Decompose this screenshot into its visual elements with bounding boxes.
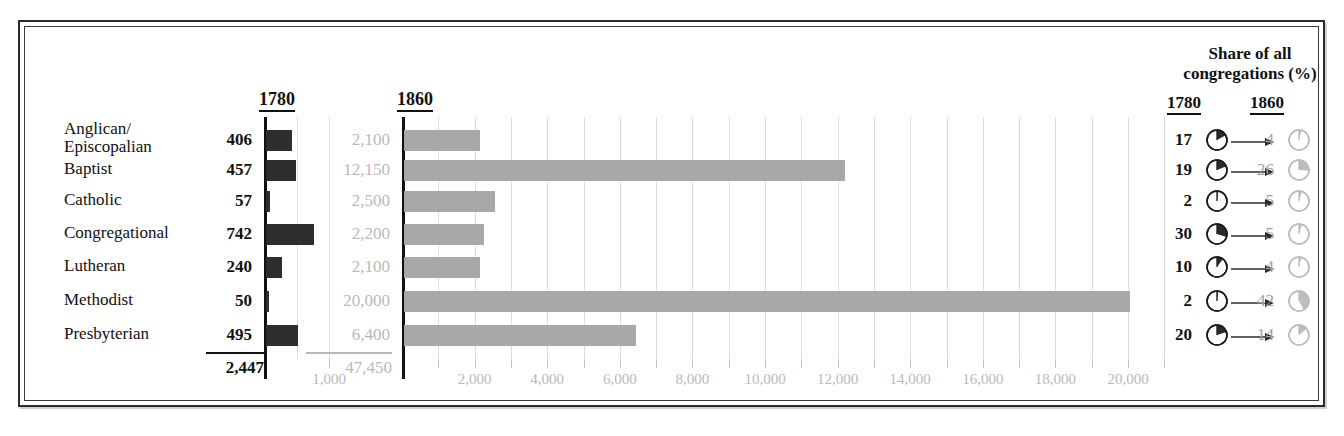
tick-1860-5000 (584, 359, 585, 368)
pie-1860-3 (1288, 223, 1310, 249)
gridline-1860-8000 (692, 117, 693, 359)
share-pct-1860-1: 26 (1240, 160, 1274, 180)
value-1780-4: 240 (190, 257, 252, 277)
share-title-line1: Share of all (1160, 44, 1340, 64)
share-col-header-1780: 1780 (1167, 94, 1201, 115)
total-1780: 2,447 (202, 358, 264, 378)
total-rule-1860 (306, 352, 392, 354)
pie-1780-4 (1206, 256, 1228, 282)
share-pct-1860-3: 5 (1240, 224, 1274, 244)
tick-1860-19000 (1092, 359, 1093, 368)
bar-1860-6 (404, 325, 636, 346)
tick-1860-7000 (656, 359, 657, 368)
pie-1860-2 (1288, 190, 1310, 216)
gridline-1860-17000 (1019, 117, 1020, 359)
bar-1860-4 (404, 257, 480, 278)
gridline-1860-16000 (983, 117, 984, 359)
bar-1780-6 (266, 325, 298, 346)
value-1780-3: 742 (190, 224, 252, 244)
pie-1860-5 (1288, 290, 1310, 316)
tick-1860-18000 (1055, 359, 1056, 368)
gridline-1860-18000 (1055, 117, 1056, 359)
pie-1780-5 (1206, 290, 1228, 316)
tick-1860-11000 (801, 359, 802, 368)
share-pct-1860-0: 4 (1240, 130, 1274, 150)
value-1780-5: 50 (190, 291, 252, 311)
gridline-1860-19000 (1092, 117, 1093, 359)
pie-1860-1 (1288, 159, 1310, 185)
bar-1780-1 (266, 160, 296, 181)
bar-1780-4 (266, 257, 282, 278)
share-pct-1780-2: 2 (1158, 191, 1192, 211)
tick-1860-1000 (438, 359, 439, 368)
pie-1860-4 (1288, 256, 1310, 282)
panel-header-1780: 1780 (259, 90, 295, 112)
axis-label-1860-20000: 20,000 (1083, 371, 1173, 388)
gridline-1860-14000 (910, 117, 911, 359)
gridline-1860-20000 (1128, 117, 1129, 359)
gridline-1860-6000 (620, 117, 621, 359)
tick-1860-13000 (874, 359, 875, 368)
pie-1860-0 (1288, 129, 1310, 155)
share-pct-1860-4: 4 (1240, 257, 1274, 277)
tick-1860-8000 (692, 359, 693, 368)
pie-1780-6 (1206, 324, 1228, 350)
bar-1860-2 (404, 191, 495, 212)
tick-1860-9000 (729, 359, 730, 368)
gridline-1860-11000 (801, 117, 802, 359)
share-pct-1860-2: 5 (1240, 191, 1274, 211)
value-1860-3: 2,200 (302, 224, 390, 244)
tick-1860-6000 (620, 359, 621, 368)
gridline-1860-4000 (547, 117, 548, 359)
share-pct-1780-6: 20 (1158, 325, 1192, 345)
gridline-1860-13000 (874, 117, 875, 359)
gridline-1860-12000 (838, 117, 839, 359)
pie-1780-0 (1206, 129, 1228, 155)
tick-1860-14000 (910, 359, 911, 368)
tick-1860-12000 (838, 359, 839, 368)
bar-1860-1 (404, 160, 845, 181)
pie-1780-3 (1206, 223, 1228, 249)
bar-1780-2 (266, 191, 270, 212)
chart-frame: 17801860Anglican/ Episcopalian4062,100Ba… (18, 20, 1325, 407)
pie-1780-1 (1206, 159, 1228, 185)
share-title-line2: congregations (%) (1160, 64, 1340, 84)
gridline-1860-5000 (584, 117, 585, 359)
total-1860: 47,450 (304, 358, 392, 378)
pie-1860-6 (1288, 324, 1310, 350)
tick-1860-20000 (1128, 359, 1129, 368)
value-1780-6: 495 (190, 325, 252, 345)
share-pct-1860-5: 42 (1240, 291, 1274, 311)
share-pct-1780-1: 19 (1158, 160, 1192, 180)
share-pct-1780-3: 30 (1158, 224, 1192, 244)
share-pct-1780-0: 17 (1158, 130, 1192, 150)
tick-1860-2000 (475, 359, 476, 368)
value-1860-1: 12,150 (302, 160, 390, 180)
share-pct-1780-5: 2 (1158, 291, 1192, 311)
share-panel-title: Share of all congregations (%) (1160, 44, 1340, 83)
gridline-1860-7000 (656, 117, 657, 359)
value-1780-1: 457 (190, 160, 252, 180)
bar-1860-3 (404, 224, 484, 245)
value-1860-6: 6,400 (302, 325, 390, 345)
gridline-1860-9000 (729, 117, 730, 359)
share-pct-1780-4: 10 (1158, 257, 1192, 277)
tick-1860-4000 (547, 359, 548, 368)
tick-1860-3000 (511, 359, 512, 368)
share-pct-1860-6: 14 (1240, 325, 1274, 345)
share-col-header-1860: 1860 (1250, 94, 1284, 115)
value-1860-5: 20,000 (302, 291, 390, 311)
tick-1860-10000 (765, 359, 766, 368)
gridline-1860-10000 (765, 117, 766, 359)
tick-1860-17000 (1019, 359, 1020, 368)
bar-1860-5 (404, 291, 1130, 312)
bar-1780-3 (266, 224, 314, 245)
value-1860-4: 2,100 (302, 257, 390, 277)
total-rule-1780 (206, 352, 264, 354)
value-1860-0: 2,100 (302, 130, 390, 150)
bar-1860-0 (404, 130, 480, 151)
panel-header-1860: 1860 (397, 90, 433, 112)
bar-1780-5 (266, 291, 269, 312)
gridline-1860-3000 (511, 117, 512, 359)
value-1780-2: 57 (190, 191, 252, 211)
